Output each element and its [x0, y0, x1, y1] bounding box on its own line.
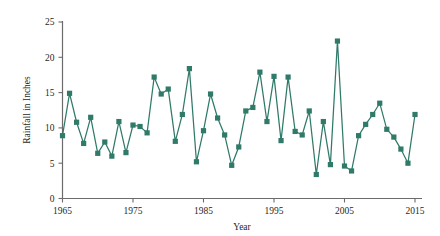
data-point-marker: [180, 112, 185, 117]
data-point-marker: [187, 66, 192, 71]
data-point-marker: [159, 91, 164, 96]
data-point-marker: [342, 163, 347, 168]
y-tick-label: 10: [45, 123, 55, 133]
data-point-marker: [166, 86, 171, 91]
data-point-marker: [356, 133, 361, 138]
data-point-marker: [81, 141, 86, 146]
data-point-marker: [328, 162, 333, 167]
data-point-marker: [349, 168, 354, 173]
data-point-marker: [377, 101, 382, 106]
data-point-marker: [152, 74, 157, 79]
data-point-marker: [264, 119, 269, 124]
data-point-marker: [286, 74, 291, 79]
data-point-marker: [271, 74, 276, 79]
data-point-marker: [95, 151, 100, 156]
data-point-marker: [130, 122, 135, 127]
y-axis-title: Rainfall in Inches: [22, 76, 32, 144]
x-tick-label: 1995: [265, 206, 284, 216]
x-axis-ticks: 196519751985199520052015: [53, 199, 425, 216]
data-point-marker: [278, 138, 283, 143]
data-point-marker: [300, 132, 305, 137]
data-point-marker: [293, 129, 298, 134]
data-point-marker: [173, 139, 178, 144]
data-point-marker: [321, 119, 326, 124]
data-point-marker: [194, 159, 199, 164]
y-axis-ticks: 0510152025: [45, 17, 63, 204]
data-point-marker: [201, 128, 206, 133]
x-tick-label: 2015: [406, 206, 425, 216]
data-point-marker: [257, 70, 262, 75]
data-point-marker: [243, 108, 248, 113]
data-point-marker: [60, 133, 65, 138]
data-point-marker: [145, 130, 150, 135]
data-point-marker: [370, 112, 375, 117]
data-point-marker: [102, 139, 107, 144]
rainfall-line-chart: 0510152025 196519751985199520052015 Rain…: [0, 0, 440, 236]
data-point-marker: [116, 119, 121, 124]
y-tick-label: 5: [50, 159, 55, 169]
y-tick-label: 20: [45, 53, 55, 63]
data-point-marker: [391, 134, 396, 139]
data-point-marker: [335, 38, 340, 43]
data-point-marker: [123, 150, 128, 155]
data-point-marker: [384, 127, 389, 132]
x-tick-label: 1985: [194, 206, 213, 216]
x-tick-label: 1965: [53, 206, 72, 216]
data-point-marker: [398, 146, 403, 151]
x-axis-title: Year: [233, 222, 251, 232]
data-point-marker: [229, 163, 234, 168]
data-point-marker: [109, 154, 114, 159]
data-point-marker: [208, 91, 213, 96]
data-point-marker: [88, 115, 93, 120]
data-point-marker: [137, 124, 142, 129]
plot-axes: [63, 21, 423, 199]
data-point-marker: [222, 132, 227, 137]
rainfall-series-markers: [60, 38, 418, 177]
data-point-marker: [67, 91, 72, 96]
data-point-marker: [236, 144, 241, 149]
rainfall-series-line: [63, 41, 416, 174]
x-tick-label: 1975: [124, 206, 143, 216]
y-tick-label: 25: [45, 17, 55, 27]
data-point-marker: [412, 112, 417, 117]
x-tick-label: 2005: [335, 206, 354, 216]
data-point-marker: [74, 120, 79, 125]
data-point-marker: [363, 122, 368, 127]
y-tick-label: 0: [50, 194, 55, 204]
data-point-marker: [215, 115, 220, 120]
data-point-marker: [307, 108, 312, 113]
data-point-marker: [314, 172, 319, 177]
data-point-marker: [405, 161, 410, 166]
y-tick-label: 15: [45, 88, 55, 98]
data-point-marker: [250, 105, 255, 110]
